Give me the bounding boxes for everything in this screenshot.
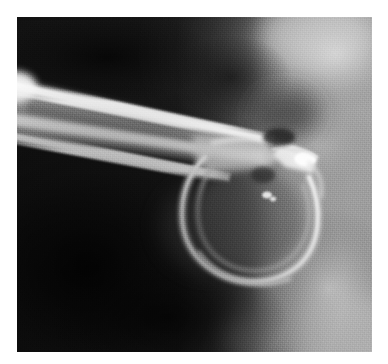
loop-interior-shadow: [197, 167, 301, 267]
dark-notch: [263, 128, 295, 146]
radiograph-canvas: [17, 17, 372, 352]
dark-notch-secondary: [251, 167, 275, 183]
radiograph-plate: [17, 17, 372, 352]
figure-page: [0, 0, 388, 364]
